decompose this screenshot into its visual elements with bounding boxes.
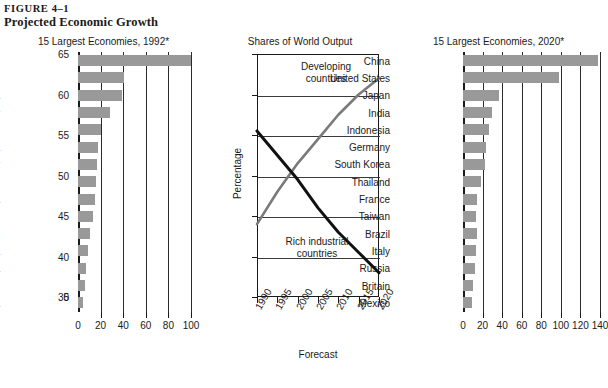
chart-title-1992: 15 Largest Economies, 1992* xyxy=(0,36,207,47)
axis-tick-label: 0 xyxy=(460,320,466,331)
bar-track xyxy=(78,245,191,256)
bar-track xyxy=(463,142,600,153)
bar-label: India xyxy=(323,107,390,118)
bar xyxy=(78,159,97,170)
bar xyxy=(463,159,485,170)
bar-label: United States xyxy=(323,72,390,83)
bar xyxy=(463,90,499,101)
bar-label: Germany xyxy=(323,142,390,153)
bar xyxy=(78,194,95,205)
tickmark xyxy=(522,312,523,318)
bar xyxy=(78,228,90,239)
bar-label: Russia xyxy=(323,263,390,274)
gridline xyxy=(600,52,601,312)
bar xyxy=(78,280,85,291)
bar xyxy=(463,228,477,239)
axis-origin-label: 0 xyxy=(63,292,69,303)
line-series-svg xyxy=(210,36,390,381)
tickmark xyxy=(191,312,192,318)
bar-track xyxy=(78,211,191,222)
tickmark xyxy=(541,312,542,318)
bar-track xyxy=(463,228,600,239)
bar xyxy=(463,194,477,205)
bar-label: Britain xyxy=(323,280,390,291)
page-title: Projected Economic Growth xyxy=(4,15,158,30)
bar xyxy=(78,72,124,83)
bar xyxy=(463,124,489,135)
bar xyxy=(78,107,110,118)
tickmark xyxy=(146,312,147,318)
tickmark xyxy=(561,312,562,318)
bar-track xyxy=(463,72,600,83)
bar-track xyxy=(463,124,600,135)
axis-tick-label: 140 xyxy=(592,320,608,331)
tickmark xyxy=(483,312,484,318)
axis-tick-label: 100 xyxy=(183,320,200,331)
bar xyxy=(78,142,98,153)
bar-track xyxy=(463,280,600,291)
bar-track xyxy=(463,194,600,205)
axis-tick-label: 60 xyxy=(58,89,69,100)
gridline xyxy=(191,52,192,312)
bar-label: Brazil xyxy=(323,228,390,239)
bar-label: Taiwan xyxy=(323,211,390,222)
tickmark xyxy=(502,312,503,318)
bar-track xyxy=(78,228,191,239)
axis-tick-label: 50 xyxy=(58,170,69,181)
bar xyxy=(463,245,476,256)
bar-track xyxy=(78,194,191,205)
bar xyxy=(78,55,191,66)
axis-tick-label: 60 xyxy=(516,320,527,331)
bar-label: France xyxy=(323,194,390,205)
tickmark xyxy=(101,312,102,318)
bar-label: Japan xyxy=(323,90,390,101)
tickmark xyxy=(580,312,581,318)
axis-tick-label: 60 xyxy=(140,320,151,331)
axis-tick-label: 40 xyxy=(118,320,129,331)
tickmark xyxy=(600,312,601,318)
bar-track xyxy=(78,142,191,153)
bar xyxy=(78,90,122,101)
bar-track xyxy=(78,297,191,308)
bar xyxy=(463,107,492,118)
bar xyxy=(78,176,96,187)
axis-tick-label: 40 xyxy=(497,320,508,331)
axis-tick-label: 120 xyxy=(572,320,589,331)
axis-tick-label: 45 xyxy=(58,211,69,222)
chart-title-2020: 15 Largest Economies, 2020* xyxy=(390,36,607,47)
bar xyxy=(78,124,101,135)
tickmark xyxy=(168,312,169,318)
axis-tick-label: 80 xyxy=(163,320,174,331)
bar xyxy=(463,55,598,66)
bar-track xyxy=(463,297,600,308)
bar-track xyxy=(78,72,191,83)
bar-label: Mexico xyxy=(323,297,390,308)
axis-tick-label: 20 xyxy=(477,320,488,331)
bar-label: Italy xyxy=(323,245,390,256)
bar xyxy=(463,142,486,153)
bar-track xyxy=(463,211,600,222)
bar-label: Thailand xyxy=(323,176,390,187)
bar-track xyxy=(78,107,191,118)
chart-panel-1992: 15 Largest Economies, 1992* United State… xyxy=(0,36,207,356)
bar-track xyxy=(463,176,600,187)
bar-track xyxy=(463,245,600,256)
bar-label: China xyxy=(323,55,390,66)
bar xyxy=(463,263,475,274)
bar-track xyxy=(463,107,600,118)
bar-track xyxy=(78,176,191,187)
chart-panel-shares: Shares of World Output 35404550556065019… xyxy=(210,36,390,381)
bar-track xyxy=(463,90,600,101)
bar-track xyxy=(78,55,191,66)
bar xyxy=(463,72,559,83)
bar-track xyxy=(463,159,600,170)
bar xyxy=(463,211,476,222)
figure-number: FIGURE 4–1 xyxy=(4,3,69,14)
bar-track xyxy=(78,263,191,274)
bar xyxy=(78,297,83,308)
bar xyxy=(78,211,93,222)
axis-tick-label: 65 xyxy=(58,49,69,60)
bar-track xyxy=(78,159,191,170)
axis-tick-label: 40 xyxy=(58,251,69,262)
